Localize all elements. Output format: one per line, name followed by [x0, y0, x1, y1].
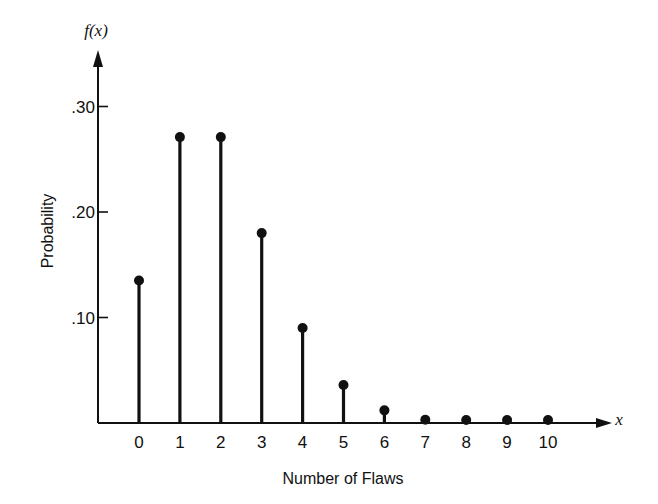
x-tick-label: 6 — [380, 433, 389, 452]
data-stem — [134, 276, 144, 423]
y-axis-title: Probability — [39, 194, 56, 269]
y-axis-ticks: .10.20.30 — [71, 98, 108, 328]
data-point-marker — [257, 228, 267, 238]
data-point-marker — [216, 132, 226, 142]
x-tick-label: 1 — [175, 433, 184, 452]
x-axis-arrow-icon — [596, 418, 612, 428]
x-axis-title: Number of Flaws — [283, 470, 404, 487]
x-tick-label: 10 — [539, 433, 558, 452]
x-axis-tick-labels: 012345678910 — [134, 433, 557, 452]
probability-stem-chart: .10.20.30 012345678910 f(x) x Probabilit… — [0, 0, 658, 504]
data-stem — [420, 415, 430, 425]
x-tick-label: 0 — [134, 433, 143, 452]
x-tick-label: 8 — [461, 433, 470, 452]
data-stem — [543, 415, 553, 425]
data-stem — [257, 228, 267, 423]
data-stem — [216, 132, 226, 423]
data-stem — [339, 380, 349, 423]
x-tick-label: 3 — [257, 433, 266, 452]
x-tick-label: 9 — [502, 433, 511, 452]
x-tick-label: 5 — [339, 433, 348, 452]
data-stem — [379, 405, 389, 423]
data-stem — [298, 323, 308, 423]
x-tick-label: 2 — [216, 433, 225, 452]
data-stem — [461, 415, 471, 425]
data-point-marker — [379, 405, 389, 415]
y-tick-label: .30 — [71, 98, 95, 117]
x-axis-symbol: x — [614, 410, 623, 429]
axes — [93, 50, 612, 428]
data-stem — [502, 415, 512, 425]
y-tick-label: .20 — [71, 203, 95, 222]
data-point-marker — [298, 323, 308, 333]
y-tick-label: .10 — [71, 309, 95, 328]
y-axis-arrow-icon — [93, 50, 103, 67]
data-stem — [175, 132, 185, 423]
data-point-marker — [502, 415, 512, 425]
data-stems — [134, 132, 553, 425]
data-point-marker — [134, 276, 144, 286]
x-tick-label: 7 — [421, 433, 430, 452]
data-point-marker — [543, 415, 553, 425]
y-axis-symbol: f(x) — [84, 21, 108, 40]
data-point-marker — [175, 132, 185, 142]
x-tick-label: 4 — [298, 433, 307, 452]
data-point-marker — [420, 415, 430, 425]
data-point-marker — [339, 380, 349, 390]
data-point-marker — [461, 415, 471, 425]
